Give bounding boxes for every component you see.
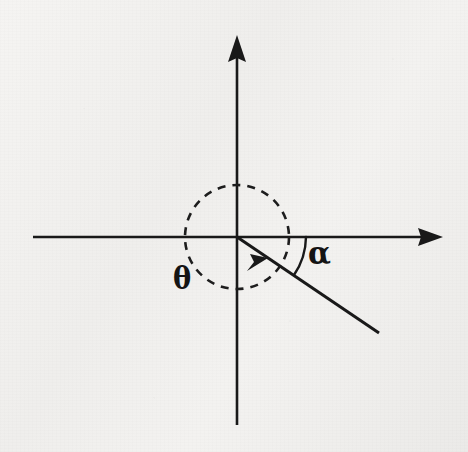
alpha-label: α — [308, 238, 331, 269]
angle-diagram-figure: θ α — [0, 0, 468, 452]
theta-label: θ — [173, 263, 191, 294]
arrow-right-icon — [418, 228, 443, 246]
alpha-angle-arc — [294, 237, 306, 275]
diagram-canvas — [0, 0, 468, 452]
arrow-up-icon — [228, 35, 246, 62]
